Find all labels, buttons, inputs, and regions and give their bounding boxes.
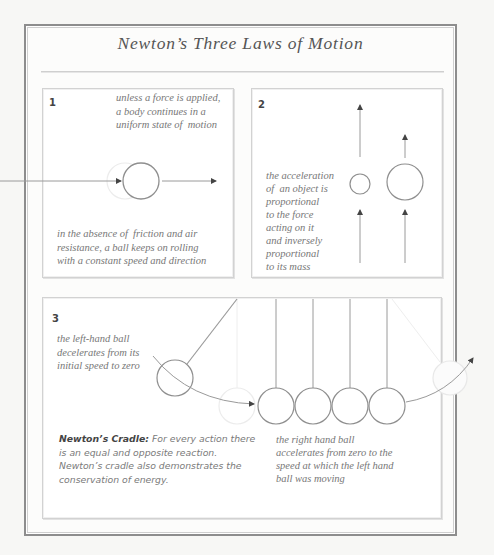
panel-law-2: 2 the acceleration of an object is propo…	[251, 88, 443, 278]
law-3-number: 3	[52, 313, 59, 324]
law-1-number: 1	[49, 97, 56, 108]
newtons-cradle-caption: Newton’s Cradle: For every action there …	[59, 432, 255, 486]
title-divider	[41, 71, 444, 73]
page-title: Newton’s Three Laws of Motion	[24, 33, 457, 54]
panel-law-1: 1 unless a force is applied, a body cont…	[42, 88, 234, 278]
law-2-number: 2	[258, 99, 265, 110]
cradle-label: Newton’s Cradle:	[59, 433, 149, 444]
law-1-caption-bottom: in the absence of friction and air resis…	[57, 227, 206, 268]
law-1-caption-top: unless a force is applied, a body contin…	[116, 91, 220, 132]
panel-law-3: 3 the left-hand ball decelerates from it…	[42, 297, 442, 519]
law-3-caption-left: the left-hand ball decelerates from its …	[57, 332, 140, 373]
law-2-caption: the acceleration of an object is proport…	[266, 169, 334, 273]
law-3-caption-right: the right hand ball accelerates from zer…	[276, 433, 394, 485]
